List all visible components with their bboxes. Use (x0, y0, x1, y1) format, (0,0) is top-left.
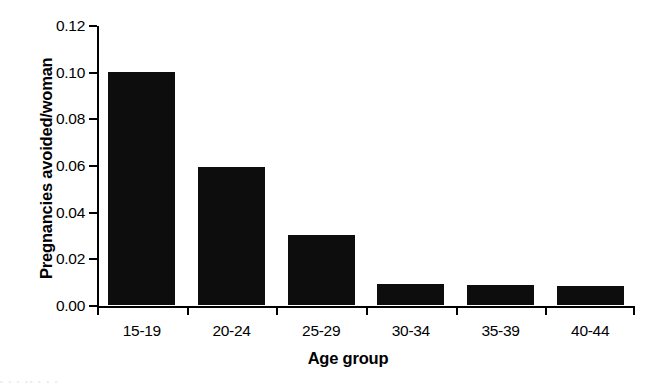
y-tick (89, 165, 97, 167)
bar (288, 235, 355, 305)
y-tick (89, 118, 97, 120)
y-tick-label: 0.08 (11, 110, 85, 128)
y-tick-label: 0.10 (11, 64, 85, 82)
x-tick (276, 307, 278, 315)
x-axis-title: Age group (0, 349, 652, 368)
x-tick (545, 307, 547, 315)
y-tick (89, 25, 97, 27)
y-tick (89, 305, 97, 307)
x-tick (366, 307, 368, 315)
x-tick-label: 35-39 (456, 322, 546, 340)
y-tick (89, 212, 97, 214)
x-tick-label: 30-34 (366, 322, 456, 340)
y-tick-label: 0.04 (11, 204, 85, 222)
x-tick (456, 307, 458, 315)
x-tick (633, 307, 635, 315)
bar (377, 284, 444, 305)
y-tick-label: 0.12 (11, 17, 85, 35)
bar (467, 285, 534, 305)
y-tick-label: 0.02 (11, 250, 85, 268)
x-tick-label: 20-24 (187, 322, 277, 340)
x-tick-label: 25-29 (276, 322, 366, 340)
x-tick (97, 307, 99, 315)
caption-remnant: • • • •• • • • (0, 378, 652, 384)
x-tick-label: 15-19 (97, 322, 187, 340)
y-tick-label: 0.06 (11, 157, 85, 175)
x-tick-label: 40-44 (545, 322, 635, 340)
bar-chart-figure: Pregnancies avoided/woman 0.000.020.040.… (0, 0, 652, 387)
y-tick (89, 72, 97, 74)
y-axis-line (97, 26, 99, 308)
bar (557, 286, 624, 305)
plot-area: 0.000.020.040.060.080.100.12 15-1920-242… (97, 26, 635, 307)
bar (198, 167, 265, 305)
y-tick (89, 258, 97, 260)
x-tick (187, 307, 189, 315)
y-tick-label: 0.00 (11, 297, 85, 315)
bar (108, 72, 175, 305)
